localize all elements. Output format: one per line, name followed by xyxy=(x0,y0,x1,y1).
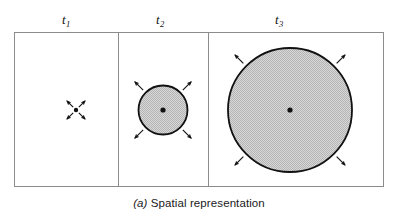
panel-frame-1 xyxy=(15,33,119,187)
panel-label-t2: t2 xyxy=(156,13,164,26)
center-dot-1 xyxy=(74,108,78,112)
caption-text: Spatial representation xyxy=(147,197,264,209)
center-dot-3 xyxy=(287,107,292,112)
panel-label-subscript-3: 3 xyxy=(279,19,283,29)
figure-caption: (a) Spatial representation xyxy=(0,197,398,209)
figure-spatial-representation: t1 t2 t3 (a) Spatial representation xyxy=(0,0,398,212)
panel-label-subscript-2: 2 xyxy=(160,19,164,29)
panel-label-subscript-1: 1 xyxy=(66,19,70,29)
panels-diagram xyxy=(0,0,398,212)
center-dot-2 xyxy=(160,107,165,112)
panel-label-t1: t1 xyxy=(62,13,70,26)
caption-tag: (a) xyxy=(133,197,147,209)
panel-label-t3: t3 xyxy=(275,13,283,26)
